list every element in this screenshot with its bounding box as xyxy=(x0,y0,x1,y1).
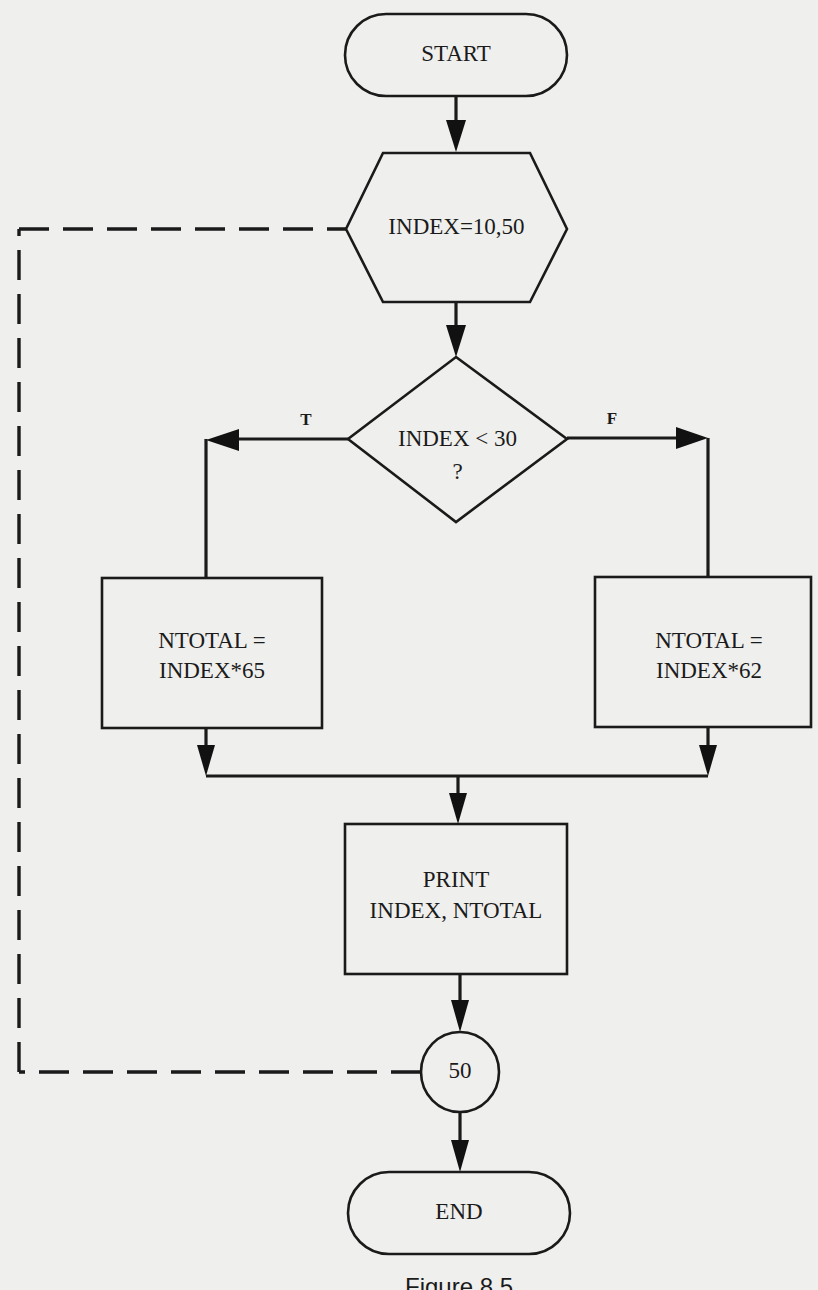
connector-label: 50 xyxy=(421,1057,499,1085)
decision-label-line2: ? xyxy=(348,458,567,486)
arrow-start-to-loop xyxy=(446,96,466,152)
arrow-print-to-connector xyxy=(451,974,469,1032)
figure-caption: Figure 8.5 xyxy=(0,1273,818,1290)
arrow-true-to-merge xyxy=(197,728,215,776)
false-process-line2: INDEX*62 xyxy=(595,657,818,685)
arrow-connector-to-end xyxy=(451,1112,469,1172)
flowchart-canvas: START INDEX=10,50 INDEX < 30 ? T F NTOTA… xyxy=(0,0,818,1290)
arrow-false-to-merge xyxy=(699,727,717,776)
false-branch-label: F xyxy=(602,409,622,429)
loop-label: INDEX=10,50 xyxy=(346,213,567,241)
true-process-line2: INDEX*65 xyxy=(102,657,322,685)
true-process-line1: NTOTAL = xyxy=(102,627,322,655)
end-label: END xyxy=(348,1198,570,1226)
print-line1: PRINT xyxy=(345,866,567,894)
print-line2: INDEX, NTOTAL xyxy=(345,897,567,925)
arrow-merge-to-print xyxy=(449,776,467,824)
arrow-false-branch xyxy=(567,427,708,577)
true-branch-label: T xyxy=(296,410,316,430)
arrow-loop-to-decision xyxy=(446,302,466,357)
decision-label-line1: INDEX < 30 xyxy=(348,425,567,453)
false-process-line1: NTOTAL = xyxy=(595,627,818,655)
arrow-true-branch xyxy=(206,429,348,578)
start-label: START xyxy=(345,40,567,68)
